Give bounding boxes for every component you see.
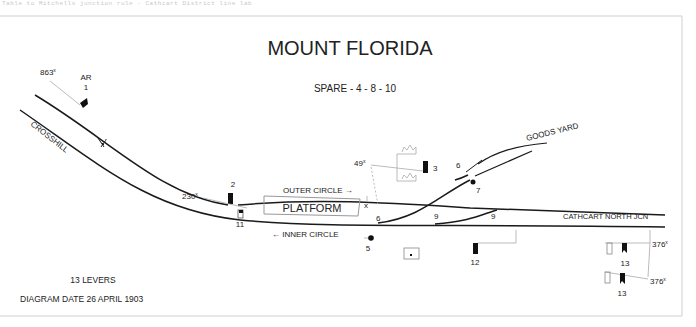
lever-6-number: 6 — [376, 214, 381, 223]
signal-11-arm — [239, 210, 243, 213]
x-mark: x — [364, 201, 368, 210]
shunt-icon-lower — [397, 173, 416, 181]
outer-circle-label: OUTER CIRCLE → — [283, 186, 353, 195]
spare-levers: SPARE - 4 - 8 - 10 — [314, 83, 397, 94]
distance-376a: 376x — [652, 239, 668, 249]
catch-6 — [455, 175, 468, 180]
signal-13a-icon — [622, 243, 627, 253]
guide-863 — [50, 81, 80, 105]
ground-disc-7-icon — [471, 180, 476, 185]
signal-12-icon — [473, 243, 478, 254]
signal-3-icon — [423, 161, 428, 173]
lever-13a-number: 13 — [621, 259, 630, 268]
diagram-date: DIAGRAM DATE 26 APRIL 1903 — [20, 294, 144, 304]
ground-disc-5-icon — [368, 235, 374, 241]
lever-11-number: 11 — [236, 220, 245, 229]
signal-1-icon — [80, 98, 88, 108]
signal-13a-post-icon — [607, 243, 612, 254]
distance-49: 49x — [354, 158, 366, 168]
ar-label: AR — [80, 73, 91, 82]
guide-13b — [605, 272, 648, 279]
lever-3-number: 3 — [433, 164, 438, 173]
goods-yard-label: GOODS YARD — [525, 121, 579, 143]
diagram-title: MOUNT FLORIDA — [267, 37, 433, 59]
lever-5-number: 5 — [366, 244, 371, 253]
crosshill-label: CROSSHILL — [29, 119, 71, 154]
shunt-icon-upper — [397, 145, 416, 154]
goods-yard-points — [466, 160, 482, 172]
guide-49-dashed — [371, 167, 378, 205]
signal-13b-icon — [620, 273, 625, 284]
lever-1-number: 1 — [84, 83, 89, 92]
platform-label: PLATFORM — [282, 202, 341, 214]
inner-circle-label: ← INNER CIRCLE — [272, 230, 339, 239]
lever-7-number: 7 — [476, 186, 481, 195]
cathcart-north-label: CATHCART NORTH JCN — [563, 212, 648, 221]
lever-6-goods-number: 6 — [456, 161, 461, 170]
lever-9b-number: 9 — [491, 212, 496, 221]
guide-230 — [203, 198, 247, 208]
crossover-6 — [378, 180, 470, 223]
lever-count: 13 LEVERS — [70, 275, 116, 285]
crossover-9 — [435, 210, 497, 224]
signal-box-icon — [404, 248, 419, 259]
distance-376b: 376x — [650, 276, 666, 286]
goods-yard-line-2 — [478, 143, 547, 164]
distance-863: 863x — [40, 67, 56, 77]
signal-box-dot — [410, 254, 412, 256]
lever-2-number: 2 — [231, 180, 236, 189]
lever-13b-number: 13 — [618, 289, 627, 298]
signal-13b-post-icon — [605, 272, 610, 283]
distance-230: 230x — [182, 191, 198, 201]
signal-2-icon — [228, 193, 233, 204]
goods-yard-line-1 — [475, 151, 532, 176]
lever-12-number: 12 — [471, 258, 480, 267]
lever-9a-number: 9 — [434, 212, 439, 221]
guide-13-vert — [648, 243, 650, 277]
signal-box-diagram: MOUNT FLORIDA SPARE - 4 - 8 - 10 PLATFOR… — [0, 0, 696, 327]
